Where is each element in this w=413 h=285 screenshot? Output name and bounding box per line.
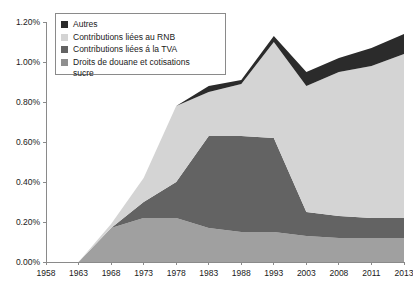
x-tick-label: 2003 [297, 268, 316, 278]
x-tick-label: 1983 [199, 268, 218, 278]
legend-label: Contributions liées au RNB [73, 32, 175, 43]
legend-item-autres: Autres [61, 19, 225, 30]
chart-legend: Autres Contributions liées au RNB Contri… [55, 13, 226, 75]
y-tick-label: 0.20% [16, 217, 41, 227]
x-tick-label: 2011 [362, 268, 381, 278]
legend-item-rnb: Contributions liées au RNB [61, 32, 225, 43]
x-tick-label: 1988 [232, 268, 251, 278]
y-tick-label: 0.40% [16, 177, 41, 187]
x-tick-label: 2013 [395, 268, 413, 278]
legend-label: Autres [73, 19, 98, 30]
legend-swatch-icon [61, 21, 68, 28]
y-tick-label: 0.80% [16, 97, 41, 107]
x-tick-label: 1958 [37, 268, 56, 278]
x-tick-label: 1963 [69, 268, 88, 278]
legend-item-droits: Droits de douane et cotisations sucre [61, 57, 225, 79]
area-chart: 0.00%0.20%0.40%0.60%0.80%1.00%1.20% 1958… [0, 0, 413, 285]
x-tick-label: 1993 [264, 268, 283, 278]
legend-swatch-icon [61, 46, 68, 53]
legend-swatch-icon [61, 59, 68, 66]
legend-label: Droits de douane et cotisations sucre [73, 57, 190, 79]
x-tick-label: 1978 [167, 268, 186, 278]
y-tick-label: 0.00% [16, 257, 41, 267]
x-tick-labels: 1958196319681973197819831988199320032008… [37, 268, 413, 278]
legend-item-tva: Contributions liées á la TVA [61, 44, 225, 55]
y-tick-label: 0.60% [16, 137, 41, 147]
y-tick-labels: 0.00%0.20%0.40%0.60%0.80%1.00%1.20% [16, 17, 41, 267]
x-tick-label: 1973 [134, 268, 153, 278]
x-tick-label: 2008 [329, 268, 348, 278]
x-tick-label: 1968 [102, 268, 121, 278]
legend-label: Contributions liées á la TVA [73, 44, 177, 55]
y-tick-label: 1.20% [16, 17, 41, 27]
legend-swatch-icon [61, 34, 68, 41]
y-tick-label: 1.00% [16, 57, 41, 67]
